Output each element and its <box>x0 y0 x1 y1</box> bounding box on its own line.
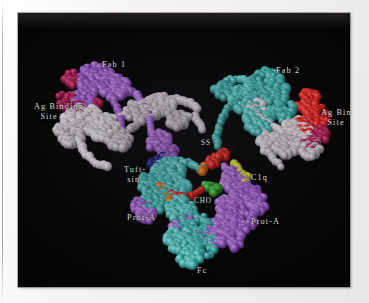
label-fab-1: Fab 1 <box>102 60 126 70</box>
page-background: Fab 1Fab 2Ag Binding SiteAg Binding Site… <box>0 0 369 303</box>
figure-plate: Fab 1Fab 2Ag Binding SiteAg Binding Site… <box>18 13 350 287</box>
label-ag-binding-left: Ag Binding Site <box>34 102 84 121</box>
label-ag-binding-right: Ag Binding Site <box>321 108 350 127</box>
label-fab-2: Fab 2 <box>276 66 300 76</box>
plate-top-glow <box>18 13 350 29</box>
scan-edge-line <box>2 0 3 303</box>
label-prot-a-right: Prot-A <box>251 217 280 227</box>
label-tuftsin: Tuft- sin <box>124 165 146 184</box>
label-cho: CHO <box>194 197 212 207</box>
antibody-space-filling-model <box>18 13 350 287</box>
scan-edge-highlight <box>4 0 5 303</box>
label-prot-a-left: Prot-A <box>127 213 156 223</box>
label-fc: Fc <box>197 266 208 276</box>
label-c1q: C1q <box>251 173 268 183</box>
label-ss-bridge: SS <box>201 139 211 149</box>
